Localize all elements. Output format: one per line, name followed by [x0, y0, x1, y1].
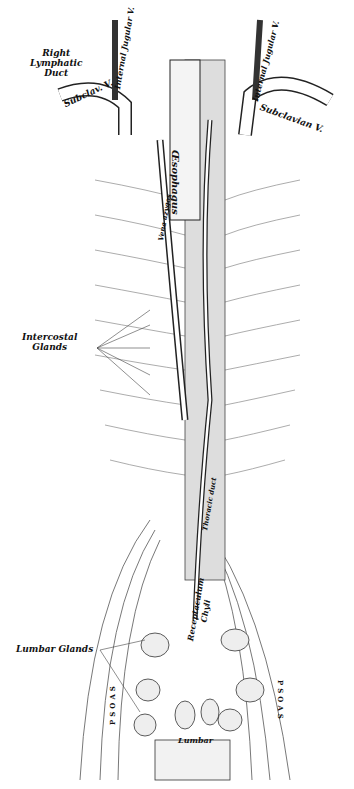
label-lumbar-glands: Lumbar Glands: [16, 644, 93, 654]
intercostal-pointer-lines: [97, 310, 150, 395]
label-line: Glands: [22, 342, 77, 352]
label-line: Lymphatic: [30, 58, 82, 68]
lumbar-vertebra: [155, 740, 230, 780]
label-lumbar: Lumbar: [178, 735, 213, 745]
label-line: Right: [30, 48, 82, 58]
label-intercostal-glands: Intercostal Glands: [22, 332, 77, 352]
anatomical-illustration: Right Lymphatic Duct Subclav. V. Interna…: [0, 0, 354, 789]
label-line: Duct: [30, 68, 82, 78]
lumbar-glands: [134, 629, 264, 736]
label-line: Intercostal: [22, 332, 77, 342]
label-right-lymphatic-duct: Right Lymphatic Duct: [30, 48, 82, 78]
label-psoas-left: PSOAS: [108, 683, 118, 725]
label-psoas-right: PSOAS: [275, 680, 285, 722]
lumbar-pointer-lines: [100, 640, 145, 712]
